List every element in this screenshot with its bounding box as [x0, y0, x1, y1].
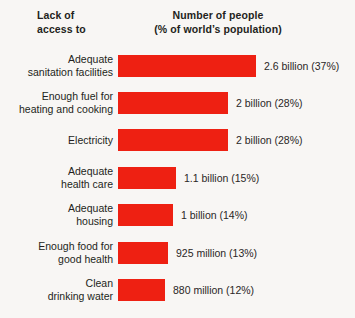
bar-category-label-line: heating and cooking — [0, 103, 113, 116]
bar — [118, 204, 173, 226]
bar-category-label: Electricity — [0, 134, 113, 147]
bar-category-label-line: health care — [0, 178, 113, 191]
bar-value-label: 1 billion (14%) — [181, 209, 248, 222]
bar — [118, 92, 228, 114]
bar-value-label: 2 billion (28%) — [236, 134, 303, 147]
bar-row: Adequatehealth care1.1 billion (15%) — [0, 159, 355, 196]
bar — [118, 279, 165, 301]
bar-value-label: 880 million (12%) — [173, 284, 254, 297]
bar-row: Adequatesanitation facilities2.6 billion… — [0, 47, 355, 84]
bar — [118, 242, 168, 264]
chart-container: Lack of access to Number of people (% of… — [0, 0, 355, 318]
bar-row: Cleandrinking water880 million (12%) — [0, 271, 355, 308]
bar-category-label: Enough fuel forheating and cooking — [0, 90, 113, 116]
bar-row: Electricity2 billion (28%) — [0, 122, 355, 159]
category-axis-title: Lack of access to — [37, 9, 117, 36]
bar-category-label: Enough food forgood health — [0, 240, 113, 266]
bar-category-label-line: Enough fuel for — [0, 90, 113, 103]
bar-category-label: Adequatehealth care — [0, 165, 113, 191]
category-axis-title-line-1: Lack of — [37, 9, 117, 23]
bar-category-label-line: Clean — [0, 277, 113, 290]
bar-category-label-line: Adequate — [0, 165, 113, 178]
value-axis-title: Number of people (% of world’s populatio… — [118, 9, 318, 36]
bar-category-label-line: Adequate — [0, 202, 113, 215]
bar-category-label-line: housing — [0, 215, 113, 228]
bar — [118, 55, 256, 77]
bar-row: Enough fuel forheating and cooking2 bill… — [0, 84, 355, 121]
bar-row: Adequatehousing1 billion (14%) — [0, 197, 355, 234]
bar — [118, 129, 228, 151]
bar-value-label: 2 billion (28%) — [236, 97, 303, 110]
bar-category-label-line: good health — [0, 253, 113, 266]
bar-value-label: 2.6 billion (37%) — [264, 59, 339, 72]
bar-category-label: Adequatesanitation facilities — [0, 53, 113, 79]
category-axis-title-line-2: access to — [37, 23, 117, 37]
chart-header: Lack of access to Number of people (% of… — [0, 9, 355, 41]
bar-rows: Adequatesanitation facilities2.6 billion… — [0, 47, 355, 309]
bar-row: Enough food forgood health925 million (1… — [0, 234, 355, 271]
bar-category-label-line: Adequate — [0, 53, 113, 66]
value-axis-title-line-1: Number of people — [118, 9, 318, 23]
bar-category-label-line: sanitation facilities — [0, 66, 113, 79]
bar — [118, 167, 176, 189]
bar-value-label: 925 million (13%) — [176, 246, 257, 259]
bar-category-label-line: drinking water — [0, 290, 113, 303]
bar-category-label: Adequatehousing — [0, 202, 113, 228]
bar-category-label: Cleandrinking water — [0, 277, 113, 303]
bar-category-label-line: Enough food for — [0, 240, 113, 253]
bar-category-label-line: Electricity — [0, 134, 113, 147]
value-axis-title-line-2: (% of world’s population) — [118, 23, 318, 37]
bar-value-label: 1.1 billion (15%) — [184, 171, 259, 184]
